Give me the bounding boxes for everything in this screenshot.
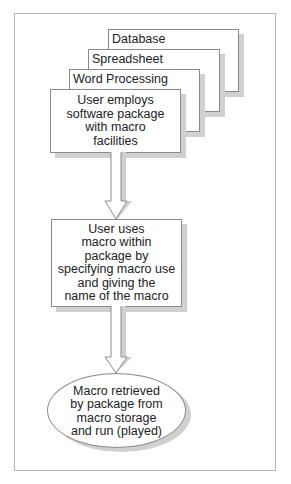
step-2-line: macro within [58,236,175,250]
step-2-line: and giving the [58,277,175,291]
step-3-line: by package from [70,398,162,412]
arrow-down-icon [100,306,136,376]
arrow-down-icon [100,152,136,222]
card-database-label: Database [112,31,166,47]
step-3-line: and run (played) [70,425,162,439]
step-1-box: User employs software package with macro… [50,89,181,153]
step-2-line: specifying macro use [58,263,175,277]
step-3-line: macro storage [70,412,162,426]
step-1-line: software package [67,108,165,122]
step-1-text: User employs software package with macro… [67,94,165,148]
step-1-line: with macro [67,121,165,135]
step-3-text: Macro retrieved by package from macro st… [70,385,162,439]
step-1-line: User employs [67,94,165,108]
card-spreadsheet-label: Spreadsheet [92,51,163,67]
step-3-ellipse: Macro retrieved by package from macro st… [47,373,186,448]
step-3-line: Macro retrieved [70,385,162,399]
step-2-box: User uses macro within package by specif… [51,219,182,307]
step-2-line: name of the macro [58,290,175,304]
step-1-line: facilities [67,135,165,149]
step-2-text: User uses macro within package by specif… [58,223,175,304]
step-2-line: package by [58,250,175,264]
card-word-processing-label: Word Processing [73,71,168,87]
step-2-line: User uses [58,223,175,237]
